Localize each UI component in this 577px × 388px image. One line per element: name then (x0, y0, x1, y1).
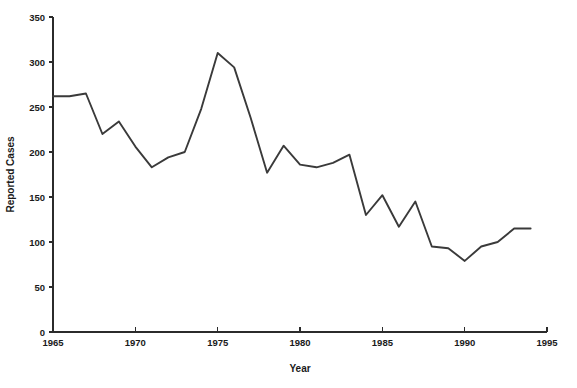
x-tick-label: 1980 (289, 337, 310, 348)
data-series-line (53, 53, 531, 261)
y-axis-title: Reported Cases (5, 136, 16, 213)
chart-plot-area: 0501001502002503003501965197019751980198… (0, 0, 577, 388)
y-tick-label: 100 (29, 237, 45, 248)
y-tick-label: 0 (40, 327, 45, 338)
x-tick-label: 1995 (537, 337, 559, 348)
y-tick-label: 200 (29, 147, 45, 158)
x-tick-label: 1990 (454, 337, 475, 348)
y-tick-label: 300 (29, 57, 45, 68)
x-axis-title: Year (289, 363, 310, 374)
x-tick-label: 1965 (42, 337, 64, 348)
y-tick-label: 350 (29, 12, 45, 23)
line-chart-figure: 0501001502002503003501965197019751980198… (0, 0, 577, 388)
y-tick-label: 150 (29, 192, 45, 203)
x-tick-label: 1975 (207, 337, 229, 348)
y-tick-label: 250 (29, 102, 45, 113)
x-tick-label: 1970 (125, 337, 146, 348)
x-tick-label: 1985 (372, 337, 394, 348)
y-tick-label: 50 (34, 282, 45, 293)
